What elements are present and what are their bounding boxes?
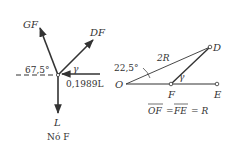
- label-2r: 2R: [156, 53, 170, 63]
- label-d: D: [212, 42, 221, 53]
- equation: OF = FE = R: [148, 104, 208, 116]
- node-f-point: [56, 73, 59, 76]
- eq-of: OF: [148, 106, 162, 116]
- label-gamma-right: γ: [179, 72, 185, 82]
- geometry-diagram: 22,5° 2R γ O F D E OF = FE = R: [114, 42, 222, 116]
- label-e: E: [213, 89, 222, 100]
- label-force-value: 0,1989L: [66, 79, 103, 89]
- label-angle-67-5: 67,5°: [25, 65, 50, 75]
- point-d: [208, 45, 212, 49]
- eq-equals: =: [166, 106, 174, 116]
- label-angle-22-5: 22,5°: [114, 63, 139, 73]
- label-f: F: [167, 89, 176, 100]
- label-gamma-left: γ: [73, 64, 79, 74]
- point-f: [169, 82, 173, 86]
- label-o: O: [115, 79, 123, 90]
- eq-fe: FE: [173, 106, 187, 116]
- label-load: L: [53, 117, 61, 128]
- point-e: [215, 82, 219, 86]
- truss-node-diagram: GF DF 67,5° γ 0,1989L L Nó F 22,5° 2R γ …: [0, 0, 233, 153]
- eq-rest: = R: [191, 106, 208, 116]
- label-node: Nó F: [47, 132, 69, 142]
- label-gf: GF: [23, 19, 39, 30]
- fd-line: [171, 47, 210, 84]
- force-diagram: GF DF 67,5° γ 0,1989L L Nó F: [16, 19, 106, 142]
- label-df: DF: [89, 27, 106, 38]
